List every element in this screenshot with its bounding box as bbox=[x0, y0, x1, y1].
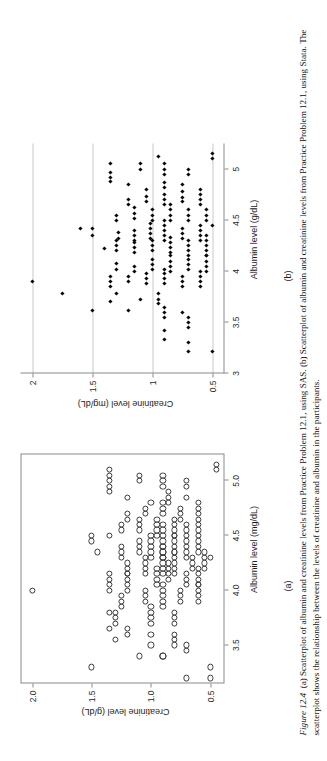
y-tick-mark-0 bbox=[210, 683, 211, 687]
x-tick-mark-2 bbox=[224, 270, 228, 271]
data-point bbox=[159, 472, 165, 478]
data-point bbox=[124, 559, 130, 565]
panel-b-x-axis-line bbox=[223, 143, 224, 373]
data-point bbox=[136, 516, 142, 522]
data-point bbox=[112, 636, 118, 642]
panel-b-y-axis-line bbox=[20, 372, 224, 373]
data-point bbox=[147, 603, 153, 609]
data-point bbox=[186, 325, 190, 329]
data-point bbox=[141, 554, 147, 560]
data-point bbox=[183, 570, 189, 576]
data-point bbox=[183, 494, 189, 500]
data-point bbox=[183, 674, 189, 680]
x-tick-label-1: 4.0 bbox=[230, 584, 240, 596]
scatterplot-panel-b: 33.544.55 0.511.52 Albumin level (g/dL) … bbox=[14, 137, 260, 409]
y-tick-mark-0 bbox=[212, 373, 213, 377]
data-point bbox=[147, 631, 153, 637]
data-point bbox=[180, 279, 184, 283]
y-tick-mark-2 bbox=[92, 373, 93, 377]
data-point bbox=[88, 663, 94, 669]
y-tick-mark-2 bbox=[91, 683, 92, 687]
y-tick-mark-1 bbox=[152, 373, 153, 377]
x-tick-label-0: 3.5 bbox=[230, 639, 240, 651]
data-point bbox=[144, 187, 148, 191]
data-point bbox=[112, 609, 118, 615]
data-point bbox=[198, 187, 202, 191]
data-point bbox=[183, 642, 189, 648]
data-point bbox=[183, 521, 189, 527]
rotated-figure-container: 3.54.04.55.0 0.51.01.52.0 Albumin level … bbox=[0, 0, 327, 761]
data-point bbox=[126, 279, 130, 283]
data-point bbox=[90, 233, 94, 237]
y-tick-mark-3 bbox=[32, 373, 33, 377]
data-point bbox=[144, 281, 148, 285]
data-point bbox=[177, 505, 183, 511]
data-point bbox=[147, 642, 153, 648]
data-point bbox=[171, 609, 177, 615]
data-point bbox=[165, 559, 171, 565]
data-point bbox=[198, 233, 202, 237]
caption-part-a: (a) Scatterplot of albumin and creatinin… bbox=[297, 369, 307, 688]
scatterplot-panel-a: 3.54.04.55.0 0.51.01.52.0 Albumin level … bbox=[14, 447, 260, 719]
data-point bbox=[162, 233, 166, 237]
data-point bbox=[118, 543, 124, 549]
panel-b-y-axis-title: Creatinine level (mg/dL) bbox=[63, 398, 187, 408]
y-tick-mark-3 bbox=[32, 683, 33, 687]
data-point bbox=[204, 233, 208, 237]
y-tick-label-0: 0.5 bbox=[205, 690, 215, 717]
data-point bbox=[189, 554, 195, 560]
data-point bbox=[195, 565, 201, 571]
data-point bbox=[141, 587, 147, 593]
x-tick-label-3: 4.5 bbox=[230, 214, 240, 226]
data-point bbox=[153, 565, 159, 571]
x-tick-mark-0 bbox=[224, 372, 228, 373]
data-point bbox=[124, 510, 130, 516]
data-point bbox=[207, 663, 213, 669]
gridline-y-0 bbox=[212, 143, 213, 373]
panel-b-x-axis-title: Albumin level (g/dL) bbox=[248, 199, 258, 279]
data-point bbox=[94, 548, 100, 554]
data-point bbox=[162, 276, 166, 280]
data-point bbox=[201, 548, 207, 554]
gridline-y-2 bbox=[92, 143, 93, 373]
data-point bbox=[88, 532, 94, 538]
y-tick-label-3: 2 bbox=[27, 380, 37, 407]
data-point bbox=[106, 609, 112, 615]
data-point bbox=[132, 233, 136, 237]
data-point bbox=[106, 570, 112, 576]
x-tick-label-3: 5.0 bbox=[230, 474, 240, 486]
x-tick-label-4: 5 bbox=[230, 166, 240, 171]
data-point bbox=[118, 521, 124, 527]
data-point bbox=[171, 516, 177, 522]
figure-caption: Figure 12.4 (a) Scatterplot of albumin a… bbox=[296, 23, 322, 735]
y-tick-label-0: 0.5 bbox=[207, 380, 217, 407]
panel-a-x-axis-title: Albumin level (mg/dL) bbox=[248, 505, 258, 592]
data-point bbox=[106, 625, 112, 631]
data-point bbox=[106, 472, 112, 478]
data-point bbox=[159, 521, 165, 527]
data-point bbox=[159, 581, 165, 587]
data-point bbox=[30, 279, 34, 283]
panel-a-y-axis-title: Creatinine level (g/dL) bbox=[65, 706, 185, 716]
data-point bbox=[147, 499, 153, 505]
data-point bbox=[162, 185, 166, 189]
x-tick-mark-0 bbox=[224, 644, 228, 645]
x-tick-mark-1 bbox=[224, 321, 228, 322]
data-point bbox=[183, 477, 189, 483]
data-point bbox=[168, 235, 172, 239]
x-tick-label-1: 3.5 bbox=[230, 316, 240, 328]
data-point bbox=[171, 631, 177, 637]
data-point bbox=[118, 592, 124, 598]
data-point bbox=[124, 625, 130, 631]
data-point bbox=[207, 674, 213, 680]
x-tick-mark-3 bbox=[224, 219, 228, 220]
x-tick-label-2: 4.5 bbox=[230, 529, 240, 541]
data-point bbox=[177, 587, 183, 593]
x-tick-label-2: 4 bbox=[230, 268, 240, 273]
x-tick-mark-1 bbox=[224, 589, 228, 590]
x-tick-mark-2 bbox=[224, 534, 228, 535]
x-tick-mark-4 bbox=[224, 168, 228, 169]
data-point bbox=[136, 472, 142, 478]
data-point bbox=[136, 538, 142, 544]
panel-a-sublabel: (a) bbox=[282, 580, 292, 591]
